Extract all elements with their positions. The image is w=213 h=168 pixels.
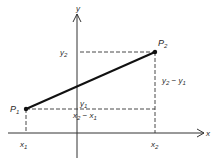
x-axis-label: x bbox=[205, 129, 211, 138]
y-axis-label: y bbox=[75, 4, 81, 13]
label-x2: x2 bbox=[150, 140, 159, 150]
point-p1 bbox=[24, 107, 28, 111]
label-p2: P2 bbox=[158, 38, 168, 49]
label-p1: P1 bbox=[10, 104, 19, 115]
label-x1: x1 bbox=[19, 140, 27, 150]
segment-p1-p2 bbox=[26, 52, 155, 109]
coordinate-diagram: x y P1 P2 y2 y1 x1 x2 x2 − x1 y2 − y1 bbox=[0, 0, 213, 168]
point-p2 bbox=[153, 50, 157, 54]
label-y2: y2 bbox=[59, 48, 68, 58]
label-x2-minus-x1: x2 − x1 bbox=[72, 111, 97, 121]
label-y1: y1 bbox=[79, 99, 87, 109]
label-y2-minus-y1: y2 − y1 bbox=[161, 76, 186, 86]
